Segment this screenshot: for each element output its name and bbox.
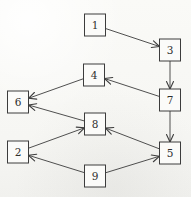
edge-1-3 (106, 29, 160, 47)
node-3: 3 (160, 39, 181, 61)
directed-graph: 134768259 (0, 0, 191, 197)
node-2-label: 2 (15, 146, 22, 158)
edge-4-6 (29, 79, 84, 99)
edge-8-6 (29, 105, 85, 121)
node-3-label: 3 (167, 44, 174, 56)
node-5: 5 (160, 142, 181, 164)
edge-5-8 (106, 128, 160, 149)
node-4: 4 (84, 64, 105, 86)
edge-7-4 (105, 79, 160, 97)
node-6-label: 6 (15, 96, 22, 108)
edges-layer (29, 29, 171, 173)
edge-9-5 (106, 156, 160, 173)
edge-9-2 (29, 155, 85, 172)
node-1: 1 (85, 14, 106, 36)
node-7: 7 (160, 89, 181, 111)
node-5-label: 5 (167, 147, 174, 159)
node-4-label: 4 (91, 69, 98, 81)
node-7-label: 7 (167, 94, 174, 106)
diagram-canvas: 134768259 (0, 0, 191, 197)
node-9: 9 (85, 165, 106, 187)
edge-2-8 (29, 128, 85, 148)
node-1-label: 1 (92, 19, 99, 31)
node-2: 2 (8, 141, 29, 163)
nodes-layer: 134768259 (8, 14, 181, 187)
node-9-label: 9 (92, 170, 99, 182)
node-8-label: 8 (92, 118, 99, 130)
node-8: 8 (85, 113, 106, 135)
node-6: 6 (8, 91, 29, 113)
